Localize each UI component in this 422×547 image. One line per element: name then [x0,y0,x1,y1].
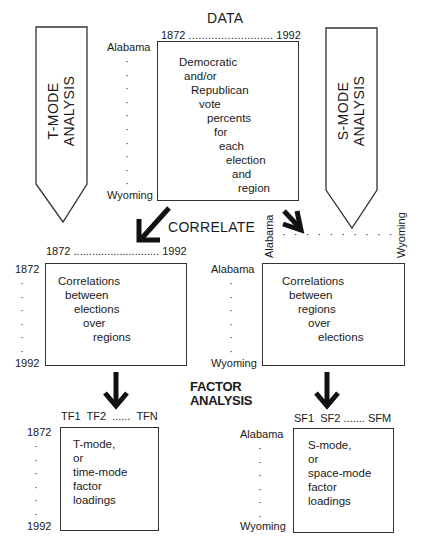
s-corr-row-end: Wyoming [211,357,257,369]
t-mode-label-line2: ANALYSIS [61,71,77,151]
t-corr-line: regions [93,331,131,345]
factor-arrow-right [316,372,338,406]
data-matrix-box: Democratic and/or Republican vote percen… [157,41,299,201]
s-loadings-line: space-mode [308,467,371,481]
s-loadings-line: loadings [308,495,351,509]
t-corr-row-end: 1992 [15,357,39,369]
t-mode-label-line1: T-MODE [45,71,61,151]
t-loadings-box: T-mode, or time-mode factor loadings [60,427,159,531]
s-loadings-line: factor [308,481,337,495]
correlate-arrow-left [139,208,169,240]
s-corr-col-dots: ·········· [282,228,401,240]
t-corr-row-dots: ······ [17,277,27,359]
factor-analysis-line1: FACTOR [190,380,252,394]
s-corr-line: between [289,289,332,303]
data-line: Republican [191,84,249,98]
factor-analysis-line2: ANALYSIS [190,394,252,408]
data-title: DATA [207,10,243,26]
t-loadings-line: time-mode [73,466,127,480]
s-loadings-col-header: SF1 SF2 ....... SFM [294,412,391,424]
s-corr-line: elections [318,331,363,345]
s-mode-label: S-MODE ANALYSIS [335,71,369,151]
t-corr-col-end: 1992 [162,245,186,257]
s-mode-label-line2: ANALYSIS [351,71,367,151]
s-corr-line: Correlations [282,275,344,289]
data-line: each [219,140,244,154]
s-corr-line: regions [298,303,336,317]
t-corr-line: elections [74,303,119,317]
data-line: region [238,182,270,196]
factor-arrow-left [105,372,127,406]
t-loadings-line: or [73,452,83,466]
data-col-dots: .......................... [189,29,274,41]
data-line: vote [199,98,221,112]
t-corr-row-start: 1872 [15,263,39,275]
s-mode-label-line1: S-MODE [335,71,351,151]
data-line: and [232,168,251,182]
data-row-dots: ·········· [122,55,132,191]
s-loadings-line: or [308,453,318,467]
t-corr-line: Correlations [58,275,120,289]
t-loadings-row-end: 1992 [27,520,51,532]
s-corr-row-dots: ······ [226,277,236,359]
t-corr-line: over [83,317,105,331]
data-col-header: 1872 .......................... 1992 [161,29,301,41]
s-corr-line: over [308,317,330,331]
data-line: and/or [184,70,217,84]
data-col-end: 1992 [276,29,300,41]
t-loadings-row-dots: ······ [31,440,41,522]
data-col-start: 1872 [161,29,185,41]
t-mode-label: T-MODE ANALYSIS [45,71,79,151]
s-loadings-box: S-mode, or space-mode factor loadings [293,428,394,533]
s-corr-row-start: Alabama [211,263,254,275]
s-loadings-row-dots: ······ [255,442,265,524]
data-row-start: Alabama [107,41,150,53]
s-loadings-line: S-mode, [308,439,351,453]
s-loadings-row-end: Wyoming [240,520,286,532]
t-loadings-row-start: 1872 [27,426,51,438]
data-row-end: Wyoming [107,189,153,201]
t-loadings-line: T-mode, [73,438,115,452]
t-loadings-line: loadings [73,494,116,508]
t-corr-col-dots: ............................ [74,245,160,257]
s-corr-col-end: Wyoming [395,212,407,258]
t-loadings-line: factor [73,480,102,494]
t-corr-matrix-box: Correlations between elections over regi… [45,263,187,366]
data-line: for [214,126,227,140]
correlate-label: CORRELATE [168,219,255,235]
t-corr-line: between [65,289,108,303]
t-corr-col-start: 1872 [46,245,70,257]
data-line: Democratic [179,56,237,70]
data-line: election [226,154,266,168]
s-corr-matrix-box: Correlations between regions over electi… [262,263,405,366]
s-loadings-row-start: Alabama [240,428,283,440]
factor-analysis-label: FACTOR ANALYSIS [190,380,252,408]
t-corr-col-header: 1872 ............................ 1992 [46,245,187,257]
s-corr-col-start: Alabama [263,215,275,258]
data-line: percents [207,112,251,126]
t-loadings-col-header: TF1 TF2 ...... TFN [61,410,158,422]
